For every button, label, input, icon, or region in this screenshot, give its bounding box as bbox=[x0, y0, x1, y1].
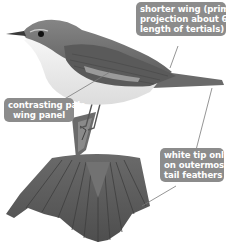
callout-wing-length: shorter wing (primary projection about 6… bbox=[136, 2, 226, 36]
callout-wing-line-1: shorter wing (primary bbox=[140, 4, 222, 14]
bird-id-diagram: shorter wing (primary projection about 6… bbox=[0, 0, 228, 245]
bird-eye bbox=[38, 31, 44, 37]
callout-tail-line-3: tail feathers bbox=[164, 170, 220, 180]
callout-wing-line-3: length of tertials) bbox=[140, 24, 222, 34]
bird-bill bbox=[6, 31, 26, 36]
callout-panel-line-2: wing panel bbox=[8, 110, 70, 120]
leader-tail-upper bbox=[196, 88, 212, 150]
callout-pale-wing-panel: contrasting pale wing panel bbox=[4, 98, 74, 122]
callout-panel-line-1: contrasting pale bbox=[8, 100, 70, 110]
callout-tail-line-2: on outermost bbox=[164, 160, 220, 170]
bird-illustration bbox=[0, 0, 228, 245]
leader-wing bbox=[170, 46, 178, 68]
callout-tail-tips: white tip only on outermost tail feather… bbox=[160, 148, 224, 182]
callout-wing-line-2: projection about 60% bbox=[140, 14, 222, 24]
callout-tail-line-1: white tip only bbox=[164, 150, 220, 160]
perch-branch bbox=[72, 112, 96, 158]
spread-tail-fan bbox=[6, 154, 150, 242]
